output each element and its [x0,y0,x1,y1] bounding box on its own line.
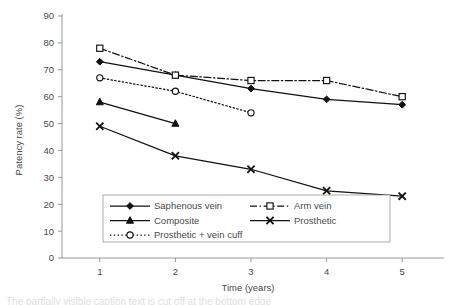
x-tick-label: 5 [400,266,405,277]
data-point-open-circle [97,75,103,81]
legend-label: Composite [154,215,199,226]
y-tick-label: 50 [43,118,54,129]
figure-container: 0102030405060708090 12345 Saphenous vein… [0,0,456,305]
legend-box [103,195,390,242]
data-point-filled-diamond [248,85,255,92]
y-tick-label: 90 [43,10,54,21]
figure-caption: The partially visible caption text is cu… [6,296,450,305]
series-line [100,102,176,124]
data-point-filled-diamond [323,96,330,103]
data-point-open-square [324,77,330,83]
legend-label: Prosthetic [294,215,336,226]
series-line [100,78,251,113]
x-tick-label: 2 [173,266,178,277]
data-point-filled-triangle [96,98,103,105]
patency-rate-line-chart: 0102030405060708090 12345 Saphenous vein… [0,0,456,305]
series-line [100,126,402,196]
x-tick-label: 1 [97,266,102,277]
y-axis: 0102030405060708090 [43,10,62,263]
data-point-open-square [172,72,178,78]
y-tick-label: 10 [43,226,54,237]
y-tick-label: 70 [43,64,54,75]
data-point-open-square [248,77,254,83]
legend-label: Prosthetic + vein cuff [154,229,243,240]
data-point-open-circle [127,232,133,238]
y-tick-label: 80 [43,37,54,48]
data-point-open-circle [172,88,178,94]
series-composite [96,98,179,126]
data-point-cross-x [96,123,103,130]
x-tick-label: 4 [324,266,329,277]
data-point-open-circle [248,110,254,116]
data-point-open-square [97,45,103,51]
y-tick-label: 60 [43,91,54,102]
y-tick-label: 40 [43,145,54,156]
data-point-filled-diamond [399,101,406,108]
y-tick-label: 0 [49,252,54,263]
data-point-open-square [399,94,405,100]
series-plot-area [96,45,406,200]
legend-label: Arm vein [294,200,331,211]
data-point-open-square [267,203,273,209]
x-tick-label: 3 [248,266,253,277]
y-tick-label: 20 [43,199,54,210]
series-prosthetic [96,123,406,200]
x-axis: 12345 [62,258,444,277]
x-axis-title: Time (years) [222,282,275,293]
y-tick-label: 30 [43,172,54,183]
series-prosthetic-vein-cuff [97,75,254,116]
legend-label: Saphenous vein [154,200,222,211]
y-axis-title: Patency rate (%) [13,105,24,176]
data-point-filled-diamond [96,58,103,65]
chart-legend: Saphenous veinArm veinCompositeProstheti… [103,195,390,242]
